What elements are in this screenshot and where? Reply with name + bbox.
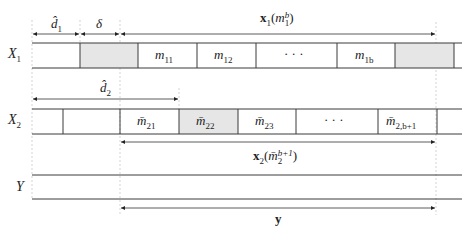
- cell-m22: m̄22: [196, 113, 214, 131]
- cell-ellipsis: · · ·: [284, 46, 304, 62]
- cell-m11: m11: [155, 47, 173, 65]
- span-label-x2: x2(m̄b+12): [253, 148, 297, 166]
- span-label-x1: x1(mb1): [260, 10, 294, 28]
- row-x1: [32, 43, 462, 68]
- row-label-x1: X1: [8, 46, 21, 64]
- cell-m21: m̄21: [137, 113, 155, 131]
- shaded-cell: [395, 43, 454, 68]
- cell-m2b1: m̄2,b+1: [386, 113, 416, 131]
- row-label-y: Y: [16, 179, 24, 195]
- row-label-x2: X2: [8, 112, 21, 130]
- span-label-delta: δ: [96, 16, 102, 32]
- span-label-d1: d̂1: [51, 16, 62, 34]
- shaded-cell: [80, 43, 138, 68]
- row-y: [32, 175, 462, 199]
- cell-ellipsis: · · ·: [324, 112, 344, 128]
- cell-m12: m12: [214, 47, 232, 65]
- span-label-d2: d̂2: [100, 80, 111, 98]
- cell-m23: m̄23: [255, 113, 273, 131]
- span-label-y: y: [275, 211, 282, 227]
- cell-m1b: m1b: [355, 47, 373, 65]
